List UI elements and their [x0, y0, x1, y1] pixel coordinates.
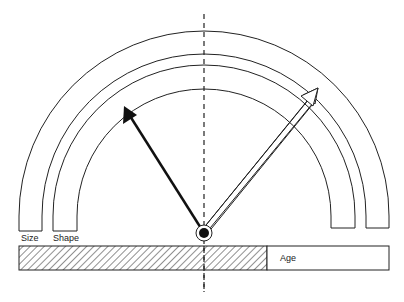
solid-arrow-head-icon [123, 106, 137, 124]
age-bar-hatched [19, 246, 267, 270]
gauge-diagram [0, 0, 404, 302]
hollow-arrow [202, 88, 318, 234]
size-label: Size [21, 233, 39, 243]
shape-label: Shape [53, 233, 79, 243]
pivot-dot [199, 228, 209, 238]
solid-arrow-shaft [130, 116, 204, 233]
age-label: Age [280, 253, 296, 263]
